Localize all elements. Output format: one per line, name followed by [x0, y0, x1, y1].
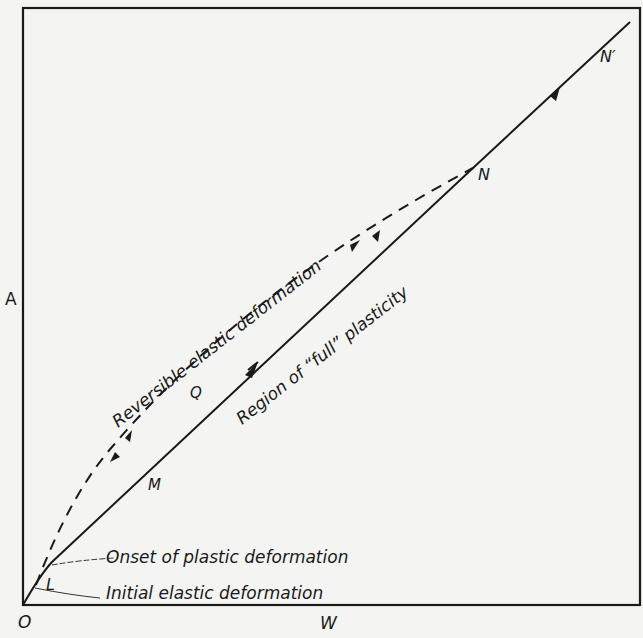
initial-elastic-label: Initial elastic deformation — [106, 583, 323, 603]
point-M-label: M — [148, 476, 161, 494]
x-axis-label: W — [320, 613, 338, 633]
arrow-bidirectional-icon — [350, 230, 380, 252]
loading-line — [23, 22, 630, 605]
origin-label: O — [18, 612, 31, 632]
plasticity-diagram: A O W L M Q N N′ Reversible elastic defo… — [0, 0, 643, 638]
y-axis-label: A — [5, 289, 17, 309]
point-N-label: N — [478, 165, 490, 184]
initial-leader-line — [35, 588, 100, 598]
point-L-label: L — [46, 575, 55, 594]
reversible-deformation-label: Reversible elastic deformation — [108, 256, 325, 432]
onset-plastic-label: Onset of plastic deformation — [106, 547, 348, 567]
point-Q-label: Q — [190, 384, 202, 402]
point-N-prime-label: N′ — [600, 47, 616, 66]
